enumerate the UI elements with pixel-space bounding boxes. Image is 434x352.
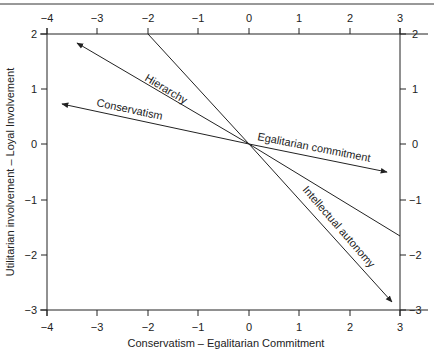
svg-text:2: 2 (347, 321, 353, 333)
svg-text:3: 3 (397, 321, 403, 333)
svg-text:2: 2 (412, 28, 418, 40)
y-tick-labels-right: 2 1 0 −1 −2 −3 (409, 28, 422, 316)
svg-text:3: 3 (397, 12, 403, 24)
svg-text:−3: −3 (91, 321, 104, 333)
hierarchy-label: Hierarchy (143, 71, 190, 106)
svg-text:1: 1 (296, 12, 302, 24)
svg-text:2: 2 (31, 28, 37, 40)
vectors (62, 34, 400, 302)
x-tick-labels-top: −4 −3 −2 −1 0 1 2 3 (41, 12, 403, 24)
svg-text:1: 1 (31, 83, 37, 95)
intellectual-autonomy-label: Intellectual autonomy (300, 183, 378, 270)
svg-text:0: 0 (412, 138, 418, 150)
svg-text:−1: −1 (24, 194, 37, 206)
svg-text:0: 0 (246, 321, 252, 333)
svg-text:−1: −1 (409, 194, 422, 206)
plot-frame (40, 28, 428, 316)
svg-text:−3: −3 (24, 304, 37, 316)
x-axis-title: Conservatism – Egalitarian Commitment (128, 337, 325, 349)
svg-text:0: 0 (31, 138, 37, 150)
svg-text:1: 1 (412, 83, 418, 95)
x-tick-labels-bottom: −4 −3 −2 −1 0 1 2 3 (41, 321, 403, 333)
svg-text:−2: −2 (24, 249, 37, 261)
svg-text:−1: −1 (192, 321, 205, 333)
intellectual-autonomy-arrow (249, 144, 392, 302)
y-axis-title: Utilitarian involvement – Loyal Involvem… (4, 68, 16, 277)
svg-text:−2: −2 (142, 12, 155, 24)
svg-text:−2: −2 (142, 321, 155, 333)
svg-text:−2: −2 (409, 249, 422, 261)
y-tick-labels-left: 2 1 0 −1 −2 −3 (24, 28, 37, 316)
svg-text:0: 0 (246, 12, 252, 24)
x-ticks (47, 28, 400, 316)
hierarchy-extension (249, 144, 400, 236)
y-ticks (41, 34, 406, 310)
svg-text:2: 2 (347, 12, 353, 24)
svg-text:−3: −3 (91, 12, 104, 24)
svg-text:1: 1 (296, 321, 302, 333)
biplot-chart: −4 −3 −2 −1 0 1 2 3 −4 −3 −2 −1 0 1 2 3 … (0, 0, 434, 352)
svg-text:−3: −3 (409, 304, 422, 316)
svg-text:−4: −4 (41, 321, 54, 333)
svg-text:−1: −1 (192, 12, 205, 24)
svg-text:−4: −4 (41, 12, 54, 24)
